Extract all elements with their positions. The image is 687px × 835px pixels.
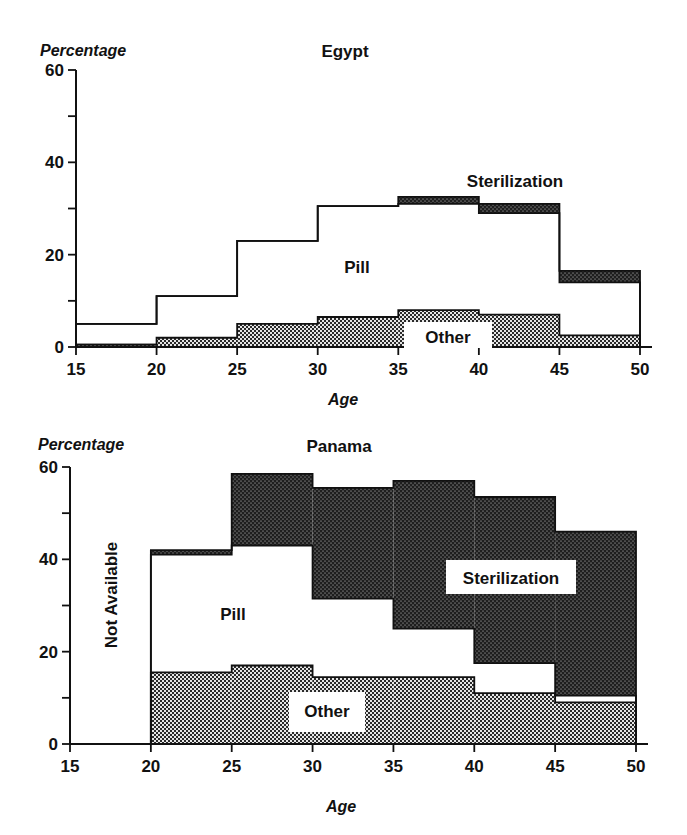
egypt-chart: 02040601520253035404550PercentageAgeEgyp…: [0, 0, 687, 415]
x-tick-label: 15: [67, 360, 86, 379]
egypt-chart-panel: 02040601520253035404550PercentageAgeEgyp…: [0, 0, 687, 415]
x-tick-label: 35: [384, 757, 403, 776]
other-bar: [555, 702, 636, 744]
panama-chart-panel: 02040601520253035404550PercentageAgePana…: [0, 420, 687, 835]
x-tick-label: 50: [627, 757, 646, 776]
other-bar: [157, 338, 238, 347]
x-tick-label: 40: [469, 360, 488, 379]
other-bar: [237, 324, 318, 347]
other-bar: [393, 677, 474, 744]
other-bar: [474, 693, 555, 744]
y-tick-label: 60: [45, 61, 64, 80]
y-axis-title: Percentage: [38, 436, 124, 453]
x-tick-label: 30: [303, 757, 322, 776]
other-label: Other: [304, 702, 350, 721]
sterilization-bar: [479, 204, 560, 213]
x-tick-label: 45: [550, 360, 569, 379]
sterilization-label: Sterilization: [463, 569, 559, 588]
y-tick-label: 40: [39, 550, 58, 569]
x-tick-label: 20: [141, 757, 160, 776]
y-tick-label: 20: [45, 246, 64, 265]
x-tick-label: 25: [228, 360, 247, 379]
sterilization-bar: [555, 532, 636, 696]
x-axis-title: Age: [327, 391, 358, 408]
x-tick-label: 40: [465, 757, 484, 776]
y-tick-label: 60: [39, 458, 58, 477]
other-bar: [151, 672, 232, 744]
pill-label: Pill: [220, 605, 246, 624]
x-tick-label: 15: [61, 757, 80, 776]
sterilization-bar: [393, 481, 474, 629]
other-bar: [559, 335, 640, 347]
x-axis-title: Age: [325, 798, 356, 815]
x-tick-label: 20: [147, 360, 166, 379]
x-tick-label: 50: [631, 360, 650, 379]
sterilization-bar: [398, 197, 479, 204]
other-bar: [318, 317, 399, 347]
y-tick-label: 20: [39, 643, 58, 662]
x-tick-label: 30: [308, 360, 327, 379]
sterilization-bar: [232, 474, 313, 546]
sterilization-bar: [559, 271, 640, 283]
x-tick-label: 45: [546, 757, 565, 776]
other-label: Other: [425, 328, 471, 347]
panama-chart: 02040601520253035404550PercentageAgePana…: [0, 420, 687, 835]
y-tick-label: 0: [49, 735, 58, 754]
sterilization-label: Sterilization: [467, 172, 563, 191]
x-tick-label: 25: [222, 757, 241, 776]
y-axis-title: Percentage: [40, 42, 126, 59]
chart-title: Egypt: [321, 42, 369, 61]
sterilization-bar: [313, 488, 394, 599]
pill-label: Pill: [344, 258, 370, 277]
y-tick-label: 40: [45, 153, 64, 172]
y-tick-label: 0: [55, 338, 64, 357]
x-tick-label: 35: [389, 360, 408, 379]
not-available-label: Not Available: [102, 542, 121, 648]
chart-title: Panama: [306, 437, 372, 456]
